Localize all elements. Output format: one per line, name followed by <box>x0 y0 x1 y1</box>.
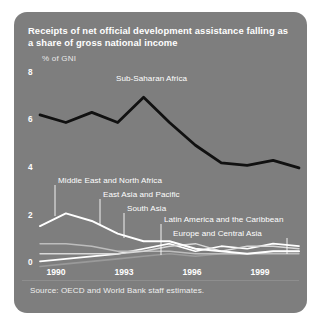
series-label-europe-central-asia: Europe and Central Asia <box>173 229 262 238</box>
source-divider <box>22 280 299 281</box>
y-axis-label-8: 8 <box>28 68 40 77</box>
series-line-sub-saharan-africa <box>40 97 299 168</box>
y-axis-label-2: 2 <box>28 211 40 220</box>
series-label-middle-east-north-africa: Middle East and North Africa <box>58 176 162 185</box>
x-axis-label-1996: 1996 <box>175 267 209 277</box>
x-axis-label-1990: 1990 <box>39 267 73 277</box>
series-label-sub-saharan-africa: Sub-Saharan Africa <box>116 74 187 83</box>
series-label-east-asia-pacific: East Asia and Pacific <box>103 190 180 199</box>
y-axis-label-0: 0 <box>28 258 40 267</box>
source-note: Source: OECD and World Bank staff estima… <box>30 286 204 295</box>
x-axis-label-1999: 1999 <box>243 267 277 277</box>
series-label-south-asia: South Asia <box>127 204 166 213</box>
chart-card: Receipts of net official development ass… <box>14 12 307 313</box>
y-axis-label-6: 6 <box>28 115 40 124</box>
x-axis-label-1993: 1993 <box>107 267 141 277</box>
series-label-latin-america-caribbean: Latin America and the Caribbean <box>164 215 283 224</box>
y-axis-label-4: 4 <box>28 163 40 172</box>
